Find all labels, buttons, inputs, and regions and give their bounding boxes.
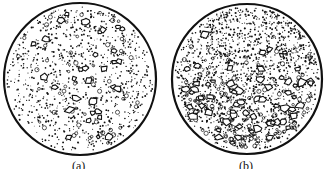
panel-a-label: (a) <box>72 160 85 169</box>
panel-b-circle <box>172 4 322 154</box>
panel-a-circle <box>4 3 156 155</box>
panel-b-label: (b) <box>239 160 253 169</box>
figure-canvas <box>0 0 327 169</box>
